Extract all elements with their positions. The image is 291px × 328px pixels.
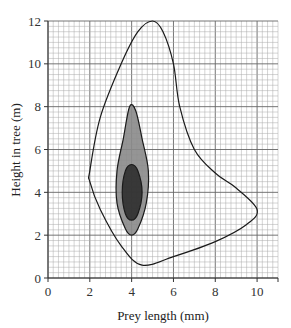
contour-chart: 0246810024681012 Prey length (mm) Height… (0, 0, 291, 328)
x-tick-label: 6 (170, 284, 177, 299)
y-tick-label: 10 (28, 56, 41, 71)
contour-inner (122, 164, 142, 220)
y-tick-label: 12 (28, 14, 41, 29)
x-tick-label: 10 (251, 284, 264, 299)
x-tick-label: 2 (87, 284, 94, 299)
grid (48, 21, 278, 278)
x-axis-label: Prey length (mm) (117, 308, 209, 323)
y-axis-label: Height in tree (m) (8, 103, 23, 197)
x-tick-label: 4 (128, 284, 135, 299)
y-tick-label: 4 (35, 185, 42, 200)
x-tick-label: 8 (212, 284, 219, 299)
contours (89, 21, 258, 265)
y-tick-label: 8 (35, 99, 42, 114)
y-tick-label: 0 (35, 271, 42, 286)
x-tick-label: 0 (45, 284, 52, 299)
y-tick-label: 2 (35, 228, 42, 243)
axes: 0246810024681012 (28, 14, 278, 300)
contour-outer (89, 21, 258, 265)
y-tick-label: 6 (35, 142, 42, 157)
